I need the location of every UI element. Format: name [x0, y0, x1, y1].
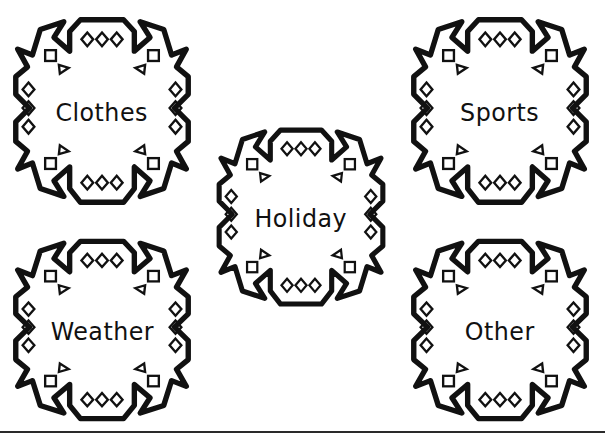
- clipped-heading-fragment: apy: [0, 0, 605, 4]
- footer-divider: [0, 431, 605, 433]
- snowflake-weather[interactable]: Weather: [4, 228, 200, 434]
- snowflake-other[interactable]: Other: [402, 228, 598, 434]
- snowflake-holiday[interactable]: Holiday: [208, 117, 394, 319]
- snowflake-sports[interactable]: Sports: [402, 6, 598, 218]
- worksheet-page: apy: [0, 0, 605, 439]
- snowflake-clothes[interactable]: Clothes: [4, 6, 200, 218]
